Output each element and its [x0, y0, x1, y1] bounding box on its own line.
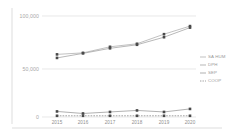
series-dph [56, 26, 192, 59]
x-tick-label: 2018 [132, 120, 143, 125]
y-tick-label: 50,000 [23, 66, 39, 72]
y-tick-label: 0 [36, 114, 39, 120]
series-line [57, 109, 190, 114]
legend-label: COOP [208, 78, 221, 83]
x-tick-label: 2019 [159, 120, 170, 125]
data-point [56, 53, 59, 56]
x-tick-label: 2017 [105, 120, 116, 125]
chart-legend: SA HUMDPHSEPCOOP [200, 54, 226, 83]
series-line [57, 26, 190, 54]
legend-label: DPH [208, 62, 218, 67]
legend-label: SEP [208, 70, 217, 75]
data-point [163, 114, 166, 117]
data-point [82, 114, 85, 117]
data-point [109, 111, 112, 114]
x-tick-label: 2020 [185, 120, 196, 125]
data-point [136, 114, 139, 117]
data-point [109, 114, 112, 117]
data-point [109, 47, 112, 50]
series-sep [56, 108, 192, 115]
x-axis-ticks: 2015 2016 2017 2018 2019 2020 [52, 120, 196, 125]
data-point [163, 36, 166, 39]
chart-container: 100,000 50,000 0 2015 2016 2017 2018 201… [0, 0, 234, 134]
data-point [189, 114, 192, 117]
data-point [163, 111, 166, 114]
data-point [56, 110, 59, 113]
series-layer [56, 25, 192, 117]
data-point [136, 109, 139, 112]
chart-canvas: 100,000 50,000 0 2015 2016 2017 2018 201… [0, 0, 234, 134]
data-point [56, 114, 59, 117]
data-point [82, 52, 85, 55]
data-point [189, 26, 192, 29]
series-sa-hum [56, 25, 192, 56]
y-axis-ticks: 100,000 50,000 0 [20, 13, 39, 120]
legend-label: SA HUM [208, 54, 226, 59]
data-point [56, 57, 59, 60]
x-tick-label: 2016 [78, 120, 89, 125]
data-point [189, 108, 192, 111]
y-tick-label: 100,000 [20, 13, 39, 19]
data-point [163, 33, 166, 36]
x-tick-label: 2015 [52, 120, 63, 125]
data-point [82, 112, 85, 115]
data-point [136, 43, 139, 46]
